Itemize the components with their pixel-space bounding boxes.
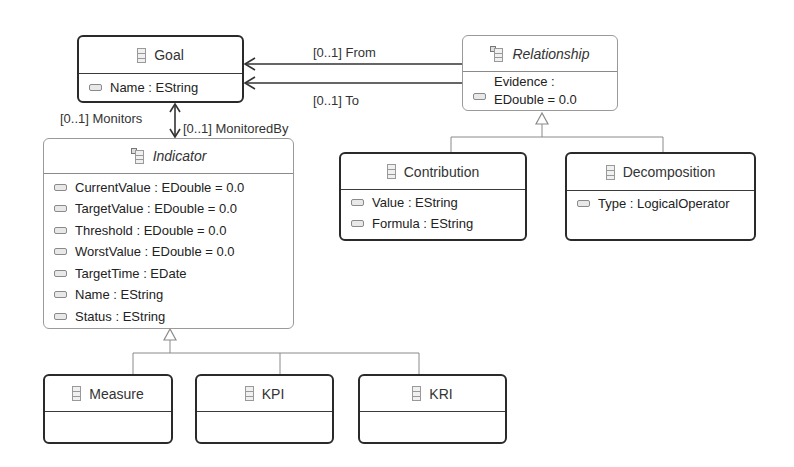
eattribute-icon (54, 227, 67, 234)
eclass-icon (72, 386, 81, 401)
class-decomposition[interactable]: Decomposition Type : LogicalOperator (565, 152, 756, 241)
abstract-eclass-icon (490, 46, 504, 62)
class-decomposition-header: Decomposition (567, 154, 754, 190)
eclass-icon (245, 386, 254, 401)
attribute-row[interactable]: TargetTime : EDate (54, 263, 187, 283)
eattribute-icon (577, 200, 590, 207)
attribute-label: Name : EString (110, 80, 198, 95)
attribute-label: WorstValue : EDouble = 0.0 (75, 244, 235, 259)
reference-to-label: [0..1] To (313, 93, 359, 108)
eattribute-icon (54, 313, 67, 320)
abstract-eclass-icon (131, 148, 145, 164)
attribute-label-line2: EDouble = 0.0 (494, 91, 577, 109)
attribute-label: Status : EString (75, 309, 165, 324)
eattribute-icon (54, 205, 67, 212)
reference-monitors-edge[interactable] (170, 104, 180, 137)
class-kri-name: KRI (429, 386, 452, 402)
compartment-divider (341, 189, 525, 190)
eattribute-icon (351, 199, 364, 206)
class-contribution-name: Contribution (404, 164, 480, 180)
class-measure[interactable]: Measure (43, 374, 173, 444)
eclass-icon (606, 165, 615, 180)
eattribute-icon (89, 84, 102, 91)
eattribute-icon (351, 220, 364, 227)
reference-to-edge[interactable] (245, 77, 462, 89)
attribute-row[interactable]: Threshold : EDouble = 0.0 (54, 220, 226, 240)
class-measure-name: Measure (89, 386, 143, 402)
attribute-label: Type : LogicalOperator (598, 196, 730, 211)
class-measure-header: Measure (45, 376, 171, 411)
indicator-generalization-edge[interactable] (133, 329, 419, 374)
compartment-divider (45, 411, 171, 412)
attribute-label: Value : EString (372, 195, 458, 210)
class-contribution[interactable]: Contribution Value : EString Formula : E… (339, 152, 527, 241)
attribute-row[interactable]: Name : EString (54, 285, 163, 305)
attribute-row[interactable]: TargetValue : EDouble = 0.0 (54, 199, 237, 219)
compartment-divider (197, 411, 332, 412)
reference-monitors-label: [0..1] Monitors (60, 111, 142, 126)
eclass-icon (412, 386, 421, 401)
class-decomposition-name: Decomposition (623, 164, 716, 180)
attribute-row[interactable]: CurrentValue : EDouble = 0.0 (54, 177, 244, 197)
eattribute-icon (54, 270, 67, 277)
relationship-generalization-edge[interactable] (451, 113, 663, 152)
reference-from-label: [0..1] From (313, 45, 376, 60)
attribute-row[interactable]: Value : EString (351, 192, 458, 212)
class-goal[interactable]: Goal Name : EString (77, 35, 244, 103)
attribute-label: Name : EString (75, 287, 163, 302)
class-relationship-name: Relationship (512, 46, 589, 62)
compartment-divider (567, 190, 754, 191)
class-kri[interactable]: KRI (358, 374, 507, 444)
compartment-divider (44, 173, 293, 174)
class-relationship-header: Relationship (463, 36, 617, 71)
attribute-row[interactable]: Formula : EString (351, 213, 473, 233)
eattribute-icon (473, 93, 486, 100)
class-goal-header: Goal (79, 37, 242, 73)
class-goal-name: Goal (154, 47, 184, 63)
diagram-canvas: [0..1] From [0..1] To [0..1] Monitors [0… (0, 0, 794, 467)
eattribute-icon (54, 248, 67, 255)
attribute-label: TargetTime : EDate (75, 266, 187, 281)
reference-monitoredby-label: [0..1] MonitoredBy (183, 121, 289, 136)
attribute-row[interactable]: WorstValue : EDouble = 0.0 (54, 242, 235, 262)
class-kpi-name: KPI (262, 386, 285, 402)
class-kri-header: KRI (360, 376, 505, 411)
attribute-label: TargetValue : EDouble = 0.0 (75, 201, 237, 216)
eattribute-icon (54, 291, 67, 298)
eclass-icon (387, 164, 396, 179)
eattribute-icon (54, 184, 67, 191)
class-kpi[interactable]: KPI (195, 374, 334, 444)
attribute-label: Formula : EString (372, 216, 473, 231)
class-relationship[interactable]: Relationship Evidence : EDouble = 0.0 (462, 35, 618, 111)
attribute-label: Threshold : EDouble = 0.0 (75, 223, 226, 238)
attribute-row[interactable]: Type : LogicalOperator (577, 193, 730, 213)
class-indicator[interactable]: Indicator CurrentValue : EDouble = 0.0 T… (43, 138, 294, 329)
class-kpi-header: KPI (197, 376, 332, 411)
class-contribution-header: Contribution (341, 154, 525, 189)
class-indicator-name: Indicator (153, 148, 207, 164)
class-indicator-header: Indicator (44, 139, 293, 173)
attribute-row[interactable]: Name : EString (89, 77, 198, 97)
eclass-icon (137, 48, 146, 63)
attribute-label-line1: Evidence : (494, 73, 577, 91)
compartment-divider (79, 73, 242, 74)
attribute-row[interactable]: Status : EString (54, 306, 165, 326)
attribute-row[interactable]: Evidence : EDouble = 0.0 (473, 72, 577, 110)
compartment-divider (360, 411, 505, 412)
attribute-label: CurrentValue : EDouble = 0.0 (75, 180, 244, 195)
